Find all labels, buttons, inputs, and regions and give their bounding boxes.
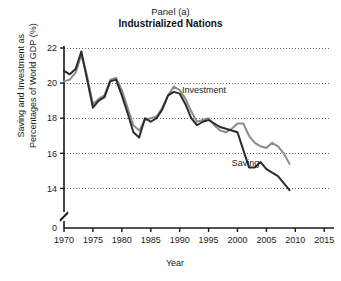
- chart-plot-area: 14161820220 1970197519801985199019952000…: [0, 0, 341, 281]
- x-tick-label: 2015: [314, 235, 334, 245]
- x-tick-label: 1980: [112, 235, 132, 245]
- series-line-investment: [64, 55, 290, 164]
- x-axis-ticks: 1970197519801985199019952000200520102015: [54, 228, 334, 245]
- x-tick-label: 1985: [141, 235, 161, 245]
- x-tick-label: 1995: [199, 235, 219, 245]
- y-tick-label: 18: [47, 113, 57, 123]
- gridlines: [64, 48, 330, 188]
- y-tick-label: 20: [47, 78, 57, 88]
- annotation-saving: Saving: [232, 158, 260, 168]
- y-axis-origin-label: 0: [52, 223, 57, 233]
- x-tick-label: 1970: [54, 235, 74, 245]
- x-tick-label: 2010: [285, 235, 305, 245]
- axes: [60, 46, 334, 228]
- chart-figure: Panel (a) Industrialized Nations Saving …: [0, 0, 341, 281]
- x-tick-label: 2005: [256, 235, 276, 245]
- data-series: [64, 52, 290, 191]
- y-tick-label: 22: [47, 43, 57, 53]
- y-tick-label: 14: [47, 184, 57, 194]
- x-tick-label: 2000: [227, 235, 247, 245]
- annotation-investment: Investment: [182, 85, 227, 95]
- x-tick-label: 1975: [83, 235, 103, 245]
- y-tick-label: 16: [47, 149, 57, 159]
- x-tick-label: 1990: [170, 235, 190, 245]
- y-axis-ticks: 14161820220: [47, 43, 64, 233]
- series-line-saving: [64, 52, 290, 191]
